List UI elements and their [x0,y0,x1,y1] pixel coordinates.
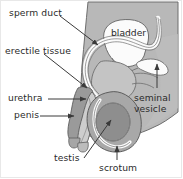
label-erectile-tissue: erectile tissue [5,46,71,57]
anatomy-diagram-figure: sperm duct erectile tissue urethra penis… [0,0,183,179]
label-bladder: bladder [111,27,146,38]
label-penis: penis [14,110,39,121]
label-seminal-vesicle: seminal vesicle [134,93,180,114]
label-sperm-duct: sperm duct [9,8,62,19]
label-scrotum: scrotum [99,163,137,174]
testis-organ [96,103,130,141]
anatomy-illustration [0,0,183,179]
leader-erectile-tissue [44,54,87,88]
label-testis: testis [54,153,80,164]
label-urethra: urethra [8,93,43,104]
